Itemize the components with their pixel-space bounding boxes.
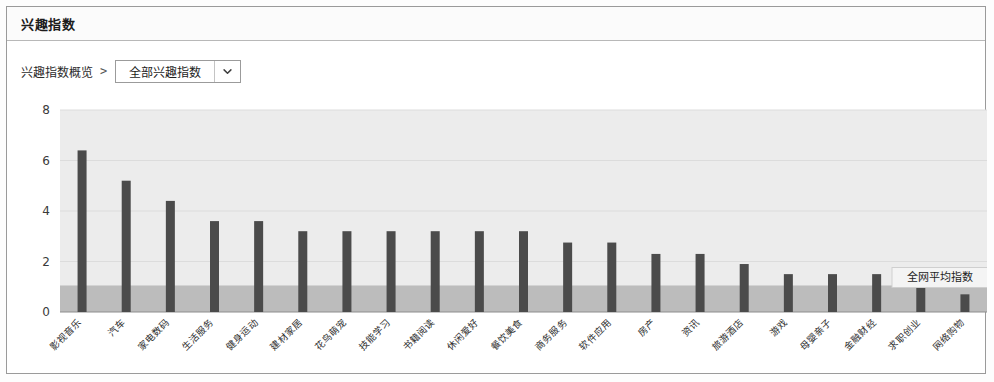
x-axis-category-label[interactable]: 资讯: [680, 317, 702, 339]
x-axis-category-label[interactable]: 健身运动: [224, 317, 260, 353]
y-axis-tick-label: 8: [42, 103, 50, 117]
y-axis-tick-label: 2: [42, 255, 50, 269]
bar[interactable]: [740, 264, 749, 312]
x-axis-category-label[interactable]: 金融财经: [842, 317, 878, 353]
bar[interactable]: [696, 254, 705, 312]
bar[interactable]: [342, 231, 351, 312]
bar[interactable]: [166, 201, 175, 312]
y-axis-tick-label: 6: [42, 154, 50, 168]
y-axis-tick-label: 0: [42, 305, 50, 319]
bar[interactable]: [475, 231, 484, 312]
x-axis-category-label[interactable]: 影视音乐: [47, 317, 83, 353]
bar[interactable]: [607, 243, 616, 312]
breadcrumb: 兴趣指数概览 > 全部兴趣指数: [21, 59, 241, 83]
bar[interactable]: [210, 221, 219, 312]
page-title: 兴趣指数: [21, 14, 75, 33]
bar[interactable]: [563, 243, 572, 312]
chevron-down-icon[interactable]: [214, 61, 240, 82]
bar[interactable]: [651, 254, 660, 312]
x-axis-category-label[interactable]: 旅游酒店: [710, 317, 746, 353]
category-select-value: 全部兴趣指数: [116, 63, 214, 80]
x-axis-category-label[interactable]: 花鸟萌宠: [312, 317, 348, 353]
bar[interactable]: [78, 150, 87, 312]
bar[interactable]: [872, 274, 881, 312]
x-axis-category-label[interactable]: 软件应用: [577, 317, 613, 353]
bar[interactable]: [828, 274, 837, 312]
x-axis-category-label[interactable]: 建材家居: [268, 317, 304, 353]
category-select[interactable]: 全部兴趣指数: [115, 60, 241, 83]
x-axis-category-label[interactable]: 网络购物: [930, 317, 966, 353]
bar[interactable]: [784, 274, 793, 312]
x-axis-category-label[interactable]: 商务服务: [533, 317, 569, 353]
x-axis-category-label[interactable]: 汽车: [106, 317, 128, 339]
bar[interactable]: [298, 231, 307, 312]
x-axis-category-label[interactable]: 生活服务: [180, 317, 216, 353]
x-axis-labels: 影视音乐汽车家电数码生活服务健身运动建材家居花鸟萌宠技能学习书籍阅读休闲爱好餐饮…: [47, 317, 966, 353]
interest-index-bar-chart: 02468 影视音乐汽车家电数码生活服务健身运动建材家居花鸟萌宠技能学习书籍阅读…: [7, 93, 987, 375]
x-axis-category-label[interactable]: 技能学习: [356, 317, 392, 353]
bar[interactable]: [387, 231, 396, 312]
breadcrumb-separator: >: [100, 64, 107, 78]
y-axis-labels: 02468: [42, 103, 50, 319]
chart-svg: 02468 影视音乐汽车家电数码生活服务健身运动建材家居花鸟萌宠技能学习书籍阅读…: [7, 93, 987, 375]
x-axis-category-label[interactable]: 母婴亲子: [798, 317, 834, 353]
bar[interactable]: [916, 284, 925, 312]
interest-index-panel: 兴趣指数 兴趣指数概览 > 全部兴趣指数 02468 影视音乐汽车家电数码生活服…: [6, 6, 986, 374]
x-axis-category-label[interactable]: 游戏: [768, 317, 790, 339]
x-axis-category-label[interactable]: 房产: [635, 317, 657, 339]
bar[interactable]: [254, 221, 263, 312]
bar[interactable]: [519, 231, 528, 312]
y-axis-tick-label: 4: [42, 204, 50, 218]
bar[interactable]: [960, 294, 969, 312]
average-index-callout-label: 全网平均指数: [907, 270, 973, 284]
x-axis-category-label[interactable]: 书籍阅读: [401, 317, 437, 353]
breadcrumb-item-overview[interactable]: 兴趣指数概览: [21, 63, 93, 80]
x-axis-category-label[interactable]: 休闲爱好: [445, 317, 481, 353]
bar[interactable]: [431, 231, 440, 312]
x-axis-category-label[interactable]: 家电数码: [136, 317, 172, 353]
x-axis-category-label[interactable]: 餐饮美食: [489, 317, 525, 353]
panel-header: 兴趣指数: [7, 7, 985, 41]
x-axis-category-label[interactable]: 求职创业: [886, 317, 922, 353]
bar[interactable]: [122, 181, 131, 312]
average-callout: 全网平均指数: [892, 267, 987, 287]
